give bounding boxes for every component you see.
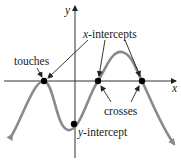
cross-point-2 — [139, 78, 145, 84]
touch-point — [41, 78, 47, 84]
touches-label: touches — [14, 55, 50, 67]
x-axis-label: x — [171, 82, 178, 94]
touches-arrow — [37, 68, 42, 77]
polynomial-intercepts-diagram: y x touches x-intercepts crosses y-inter… — [0, 0, 181, 162]
x-intercepts-arrow-3 — [125, 40, 140, 76]
y-intercept-label-text: -intercept — [83, 126, 128, 139]
y-intercept-label: y-intercept — [77, 126, 128, 139]
x-intercepts-arrow-1 — [48, 40, 88, 78]
cross-point-1 — [95, 78, 101, 84]
crosses-arrow-2 — [131, 86, 139, 102]
crosses-label: crosses — [104, 105, 138, 117]
y-axis-label: y — [64, 4, 71, 17]
y-intercept-point — [71, 121, 77, 127]
x-intercepts-label-text: -intercepts — [88, 28, 137, 41]
x-intercepts-label: x-intercepts — [82, 28, 137, 41]
crosses-arrow-1 — [101, 86, 111, 102]
